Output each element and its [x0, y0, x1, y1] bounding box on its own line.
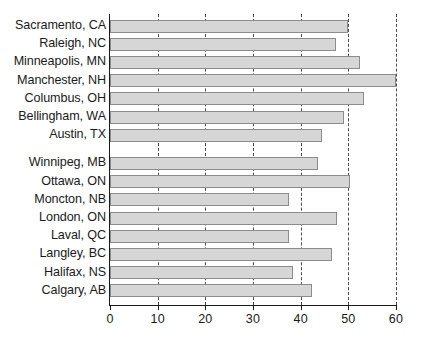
bar	[110, 111, 344, 124]
bar	[110, 175, 350, 188]
bar	[110, 92, 364, 105]
bar	[110, 129, 322, 142]
bar	[110, 20, 348, 33]
category-label: Sacramento, CA	[2, 18, 106, 32]
category-label: Ottawa, ON	[2, 174, 106, 188]
bar	[110, 266, 293, 279]
x-tick-label-20: 20	[185, 312, 225, 326]
x-tick-mark-50	[348, 305, 349, 310]
bar	[110, 284, 312, 297]
x-tick-label-50: 50	[328, 312, 368, 326]
x-tick-label-10: 10	[138, 312, 178, 326]
bar	[110, 38, 336, 51]
bar	[110, 56, 360, 69]
x-tick-label-40: 40	[281, 312, 321, 326]
category-label-column: Sacramento, CARaleigh, NCMinneapolis, MN…	[0, 0, 106, 344]
category-label: Austin, TX	[2, 127, 106, 141]
x-tick-mark-30	[253, 305, 254, 310]
category-label: Halifax, NS	[2, 265, 106, 279]
category-label: Laval, QC	[2, 228, 106, 242]
x-tick-mark-10	[158, 305, 159, 310]
category-label: Winnipeg, MB	[2, 155, 106, 169]
bar	[110, 193, 289, 206]
category-label: Columbus, OH	[2, 91, 106, 105]
bar-chart: Sacramento, CARaleigh, NCMinneapolis, MN…	[0, 0, 423, 344]
bar	[110, 74, 396, 87]
x-tick-mark-0	[110, 305, 111, 310]
x-tick-label-60: 60	[376, 312, 416, 326]
category-label: Calgary, AB	[2, 283, 106, 297]
bar	[110, 157, 318, 170]
x-tick-label-30: 30	[233, 312, 273, 326]
category-label: London, ON	[2, 210, 106, 224]
category-label: Langley, BC	[2, 246, 106, 260]
x-tick-mark-40	[301, 305, 302, 310]
category-label: Bellingham, WA	[2, 109, 106, 123]
bar	[110, 230, 289, 243]
category-label: Raleigh, NC	[2, 36, 106, 50]
bar	[110, 212, 337, 225]
x-tick-mark-60	[396, 305, 397, 310]
gridline-60	[396, 14, 397, 305]
bar	[110, 248, 332, 261]
x-tick-mark-20	[205, 305, 206, 310]
category-label: Moncton, NB	[2, 192, 106, 206]
x-tick-label-0: 0	[90, 312, 130, 326]
category-label: Manchester, NH	[2, 73, 106, 87]
category-label: Minneapolis, MN	[2, 54, 106, 68]
